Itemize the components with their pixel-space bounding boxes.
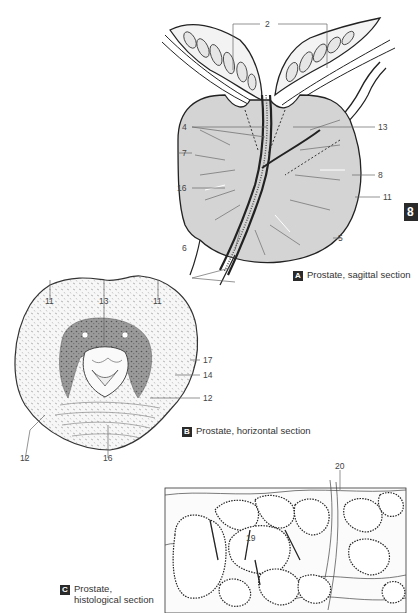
label-19: 19 <box>246 534 255 543</box>
label-8: 8 <box>378 171 383 180</box>
label-7: 7 <box>182 149 187 158</box>
figure-c-histological-section: 20 19 C Prostate, histological section <box>0 460 416 613</box>
sagittal-section-illustration <box>0 0 416 290</box>
figure-c-caption-line1: Prostate, <box>74 583 112 594</box>
label-16: 16 <box>177 184 186 193</box>
figure-b-horizontal-section: 11 13 11 17 14 12 12 16 B Prostate, hori… <box>0 290 416 460</box>
figure-b-caption: B Prostate, horizontal section <box>182 426 311 437</box>
label-11: 11 <box>383 193 392 202</box>
label-13: 13 <box>99 297 108 306</box>
figure-c-caption: C Prostate, histological section <box>60 584 154 606</box>
figure-b-caption-text: Prostate, horizontal section <box>196 426 311 437</box>
label-20: 20 <box>335 462 344 471</box>
figure-a-caption: A Prostate, sagittal section <box>293 270 411 281</box>
label-4: 4 <box>182 123 187 132</box>
label-6: 6 <box>182 244 187 253</box>
figure-a-sagittal-section: 2 4 13 7 8 16 11 6 5 A Prostate, sagitta… <box>0 0 416 290</box>
label-13: 13 <box>378 123 387 132</box>
figure-c-caption-text: Prostate, histological section <box>74 584 154 606</box>
label-11-right: 11 <box>153 297 162 306</box>
figure-b-badge: B <box>182 427 192 437</box>
figure-c-caption-line2: histological section <box>74 594 154 605</box>
label-17: 17 <box>203 356 212 365</box>
label-12-right: 12 <box>203 394 212 403</box>
label-5: 5 <box>338 234 343 243</box>
figure-c-badge: C <box>60 585 70 595</box>
label-14: 14 <box>203 371 212 380</box>
label-2: 2 <box>265 20 270 29</box>
figure-a-badge: A <box>293 271 303 281</box>
figure-a-caption-text: Prostate, sagittal section <box>307 270 411 281</box>
label-11-left: 11 <box>45 297 54 306</box>
